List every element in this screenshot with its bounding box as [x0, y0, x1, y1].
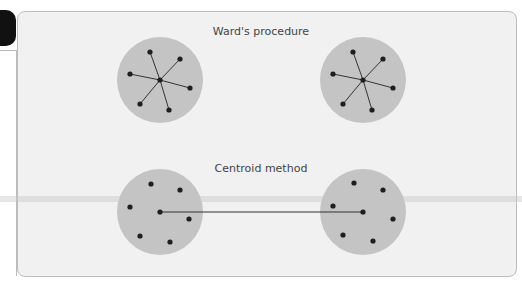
centroid-point: [360, 209, 365, 214]
data-point: [390, 85, 395, 90]
data-point: [370, 238, 375, 243]
data-point: [380, 187, 385, 192]
data-point: [137, 233, 142, 238]
data-point: [127, 71, 132, 76]
data-point: [186, 216, 191, 221]
data-point: [351, 180, 356, 185]
data-point: [147, 49, 152, 54]
data-point: [330, 203, 335, 208]
data-point: [167, 239, 172, 244]
data-point: [137, 101, 142, 106]
centroid-point: [157, 209, 162, 214]
data-point: [127, 204, 132, 209]
data-point: [187, 85, 192, 90]
data-point: [350, 49, 355, 54]
data-point: [340, 232, 345, 237]
centroid-point: [360, 77, 365, 82]
data-point: [340, 101, 345, 106]
centroid-point: [157, 77, 162, 82]
data-point: [390, 216, 395, 221]
data-point: [166, 107, 171, 112]
data-point: [148, 181, 153, 186]
data-point: [177, 187, 182, 192]
data-point: [369, 107, 374, 112]
data-point: [380, 56, 385, 61]
cluster-diagram: [0, 0, 522, 284]
data-point: [330, 71, 335, 76]
data-point: [177, 56, 182, 61]
